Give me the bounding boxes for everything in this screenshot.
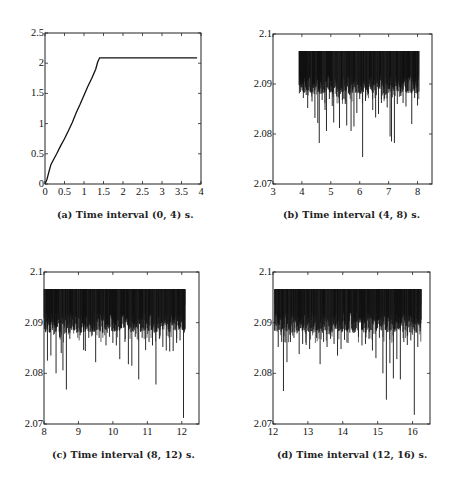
- x-tick-label: 2.5: [136, 186, 149, 197]
- x-tick-label: 13: [303, 426, 314, 437]
- x-tick-label: 7: [386, 186, 391, 197]
- x-tick-label: 3: [159, 186, 164, 197]
- caption-a: (a) Time interval (0, 4) s.: [57, 209, 194, 220]
- y-tick-label: 0.5: [31, 148, 44, 159]
- y-tick-label: 2.07: [254, 178, 272, 189]
- x-tick-label: 12: [177, 426, 188, 437]
- y-tick-label: 1: [39, 118, 44, 129]
- y-tick-label: 2.08: [254, 367, 272, 378]
- data-series: [44, 289, 185, 418]
- chart-panel-d: 12131415162.072.082.092.1: [228, 240, 456, 480]
- y-tick-label: 2.5: [31, 27, 44, 38]
- data-series: [299, 51, 419, 157]
- x-tick-label: 10: [108, 426, 119, 437]
- data-series: [275, 289, 422, 415]
- data-series: [45, 58, 197, 184]
- chart-d-svg: 12131415162.072.082.092.1: [228, 240, 456, 440]
- y-tick-label: 2.09: [254, 317, 272, 328]
- x-tick-label: 16: [407, 426, 418, 437]
- y-tick-label: 2.09: [254, 78, 272, 89]
- y-tick-label: 2.08: [254, 128, 272, 139]
- y-tick-label: 2.1: [30, 266, 43, 277]
- x-tick-label: 5: [328, 186, 333, 197]
- x-tick-label: 2: [120, 186, 125, 197]
- caption-c: (c) Time interval (8, 12) s.: [52, 449, 195, 460]
- y-tick-label: 2.07: [25, 418, 43, 429]
- y-tick-label: 2.1: [259, 28, 272, 39]
- x-tick-label: 0.5: [58, 186, 71, 197]
- y-tick-label: 2.07: [254, 418, 272, 429]
- y-tick-label: 1.5: [31, 87, 44, 98]
- chart-panel-c: 891011122.072.082.092.1: [0, 240, 228, 480]
- y-tick-label: 2.08: [25, 367, 43, 378]
- x-tick-label: 6: [357, 186, 362, 197]
- x-tick-label: 14: [338, 426, 349, 437]
- x-tick-label: 8: [415, 186, 420, 197]
- x-tick-label: 9: [76, 426, 81, 437]
- chart-panel-a: 00.511.522.533.5400.511.522.5: [0, 0, 228, 240]
- x-tick-label: 4: [198, 186, 204, 197]
- x-tick-label: 1: [81, 186, 86, 197]
- y-tick-label: 2.1: [259, 266, 272, 277]
- caption-b: (b) Time interval (4, 8) s.: [283, 209, 420, 220]
- chart-a-svg: 00.511.522.533.5400.511.522.5: [0, 0, 228, 200]
- x-tick-label: 4: [299, 186, 305, 197]
- x-tick-label: 11: [142, 426, 152, 437]
- x-tick-label: 15: [372, 426, 383, 437]
- x-tick-label: 1.5: [97, 186, 110, 197]
- y-tick-label: 2.09: [25, 317, 43, 328]
- y-tick-label: 2: [39, 57, 44, 68]
- plot-frame: [45, 33, 201, 184]
- caption-d: (d) Time interval (12, 16) s.: [277, 449, 427, 460]
- chart-b-svg: 3456782.072.082.092.1: [228, 0, 456, 200]
- chart-panel-b: 3456782.072.082.092.1: [228, 0, 456, 240]
- chart-c-svg: 891011122.072.082.092.1: [0, 240, 228, 440]
- x-tick-label: 3.5: [175, 186, 188, 197]
- y-tick-label: 0: [39, 178, 44, 189]
